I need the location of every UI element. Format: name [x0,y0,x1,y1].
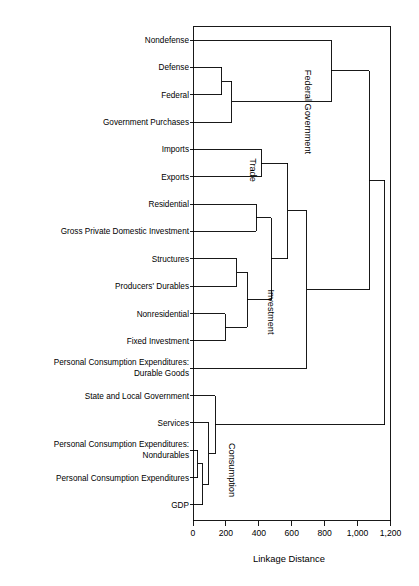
leaf-label-16: Personal Consumption Expenditures [56,474,189,483]
cluster-label-consumption: Consumption [227,443,237,497]
leaf-label-12-line-0: Personal Consumption Expenditures: [54,358,189,367]
leaf-label-5: Exports [161,173,189,182]
x-tick-label-1: 200 [219,528,234,538]
x-tick-label-2: 400 [252,528,267,538]
leaf-label-7: Gross Private Domestic Investment [61,227,190,236]
x-tick-label-4: 800 [317,528,332,538]
leaf-label-4: Imports [162,145,189,154]
leaf-label-3: Government Purchases [103,118,189,127]
cluster-label-trade: Trade [248,158,258,182]
dendrogram-figure: NondefenseDefenseFederalGovernment Purch… [0,0,419,586]
leaf-label-12-line-1: Durable Goods [134,369,189,378]
leaf-label-17: GDP [171,501,189,510]
leaf-label-1: Defense [159,63,190,72]
leaf-label-6: Residential [148,200,189,209]
x-tick-label-3: 600 [285,528,300,538]
leaf-label-8: Structures [152,255,189,264]
leaf-label-11: Fixed Investment [127,337,190,346]
leaf-label-14: Services [158,419,189,428]
leaf-label-0: Nondefense [145,36,190,45]
leaf-label-9: Producers' Durables [115,282,189,291]
leaf-label-10: Nonresidential [137,310,190,319]
cluster-label-investment: Investment [266,290,276,335]
leaf-label-15-line-0: Personal Consumption Expenditures: [54,440,189,449]
dendrogram-svg: NondefenseDefenseFederalGovernment Purch… [0,0,419,586]
leaf-label-2: Federal [161,91,189,100]
axis-title: Linkage Distance [253,553,325,564]
x-tick-label-5: 1,000 [347,528,369,538]
figure-background [0,0,419,586]
x-tick-label-6: 1,200 [380,528,402,538]
leaf-label-15-line-1: Nondurables [143,451,189,460]
cluster-label-federal-government: Federal Government [303,70,313,155]
x-tick-label-0: 0 [191,528,196,538]
leaf-label-13: State and Local Government [85,392,190,401]
